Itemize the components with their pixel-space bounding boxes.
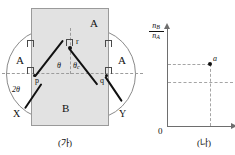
region-label-b: B — [62, 103, 69, 114]
ray-label-x: X — [13, 109, 20, 119]
apex-point-dot — [68, 46, 72, 50]
y-axis-line — [167, 28, 168, 126]
point-label-p: p — [35, 77, 39, 85]
angle-label-theta-left: θ — [57, 62, 61, 70]
region-label-a-left: A — [16, 55, 24, 66]
right-angle-marker-q — [105, 67, 112, 74]
x-axis-line — [167, 126, 233, 127]
region-label-a-top: A — [90, 18, 98, 29]
region-label-a-right: A — [118, 55, 126, 66]
point-label-q: q — [100, 77, 104, 85]
right-angle-marker-apex — [66, 39, 73, 46]
ray-label-y: Y — [119, 109, 126, 119]
guide-line-horizontal-upper — [168, 64, 210, 65]
horizontal-dashed-axis — [2, 73, 143, 74]
point-q-dot — [105, 74, 108, 77]
right-angle-marker-top-left — [27, 40, 34, 47]
y-axis-arrow-icon — [164, 23, 170, 29]
caption-figure-a: (가) — [58, 136, 72, 149]
data-point-a — [208, 62, 212, 66]
figure-canvas: A A A B r p q X Y 2θ θ θc (가) nB nA a 0 … — [0, 0, 235, 155]
ratio-graph: nB nA a 0 (나) — [145, 0, 235, 155]
optics-diagram: A A A B r p q X Y 2θ θ θc (가) — [0, 0, 145, 155]
data-point-label-a: a — [213, 54, 217, 63]
x-axis-arrow-icon — [231, 123, 235, 129]
guide-line-vertical — [210, 64, 211, 126]
n-subscript-a: A — [156, 34, 160, 40]
guide-line-horizontal-lower — [168, 82, 233, 83]
angle-label-2theta: 2θ — [12, 86, 20, 94]
y-axis-denominator: nA — [145, 32, 167, 40]
right-angle-marker-top-right — [105, 40, 112, 47]
angle-label-theta-c: θc — [73, 62, 80, 70]
right-angle-marker-p — [27, 67, 34, 74]
theta-c-subscript: c — [77, 64, 80, 70]
point-label-r: r — [76, 38, 79, 46]
caption-figure-b: (나) — [197, 136, 211, 149]
n-subscript-b: B — [156, 24, 160, 30]
origin-label: 0 — [158, 126, 163, 136]
